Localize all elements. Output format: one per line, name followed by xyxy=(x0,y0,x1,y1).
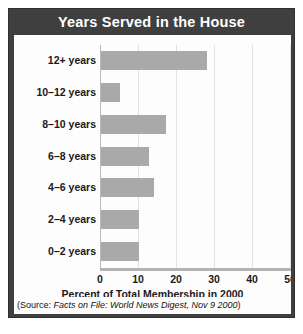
source-note: (Source: Facts on File: World News Diges… xyxy=(14,297,291,313)
chart-panel: 12+ years10–12 years8–10 years6–8 years4… xyxy=(14,35,291,314)
bar-row xyxy=(101,141,290,173)
bar xyxy=(101,210,139,229)
chart-title-band: Years Served in the House xyxy=(9,9,294,35)
bar xyxy=(101,51,207,70)
bar-row xyxy=(101,236,290,268)
bar xyxy=(101,83,120,102)
y-axis-label: 8–10 years xyxy=(16,118,96,130)
bar-row xyxy=(101,109,290,141)
bar xyxy=(101,147,149,166)
bar-row xyxy=(101,77,290,109)
bar-row xyxy=(101,45,290,77)
x-tick-30: 30 xyxy=(199,273,229,285)
y-axis-label: 2–4 years xyxy=(16,213,96,225)
bar xyxy=(101,178,154,197)
plot-area xyxy=(100,45,290,268)
page-title: Years Served in the House xyxy=(58,14,245,30)
x-tick-50: 50 xyxy=(275,273,291,285)
x-tick-20: 20 xyxy=(161,273,191,285)
source-citation: Facts on File: World News Digest, Nov 9 … xyxy=(54,300,238,310)
x-tick-40: 40 xyxy=(237,273,267,285)
y-axis-category-labels: 12+ years10–12 years8–10 years6–8 years4… xyxy=(14,45,96,268)
bar-row xyxy=(101,204,290,236)
y-axis-label: 4–6 years xyxy=(16,181,96,193)
y-axis-label: 12+ years xyxy=(16,54,96,66)
x-tick-10: 10 xyxy=(123,273,153,285)
y-axis-label: 6–8 years xyxy=(16,150,96,162)
y-axis-label: 0–2 years xyxy=(16,245,96,257)
chart-figure: Years Served in the House 12+ years10–12… xyxy=(8,8,295,318)
y-axis-label: 10–12 years xyxy=(16,86,96,98)
x-axis-tick-labels: 01020304050 xyxy=(100,273,291,287)
x-tick-0: 0 xyxy=(85,273,115,285)
gridline-x-50 xyxy=(290,45,291,268)
bar xyxy=(101,242,139,261)
bar xyxy=(101,115,166,134)
x-axis-line xyxy=(100,268,291,271)
bar-row xyxy=(101,172,290,204)
source-note-text: (Source: Facts on File: World News Diges… xyxy=(14,300,241,310)
